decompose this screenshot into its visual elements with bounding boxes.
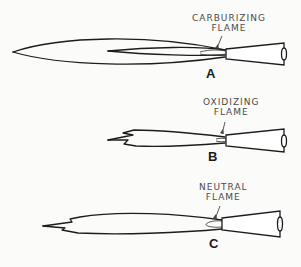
torch-tip-end	[282, 48, 287, 60]
outer-envelope-top	[108, 130, 225, 140]
torch-tip-end	[278, 217, 283, 231]
torch-tip	[226, 129, 284, 152]
torch-tip	[222, 211, 280, 237]
neutral-flame-drawing	[43, 206, 283, 237]
caption-line2: FLAME	[192, 23, 266, 33]
outer-envelope-top	[43, 213, 222, 226]
oxidizing-flame-drawing	[108, 122, 287, 152]
panel-label-c: C	[209, 236, 218, 251]
inner-cone	[216, 138, 226, 142]
outer-envelope-bottom	[43, 226, 222, 234]
torch-tip-end	[282, 135, 287, 147]
panel-label-a: A	[206, 66, 215, 81]
outer-envelope-bottom	[13, 52, 225, 64]
inner-cone	[206, 221, 222, 227]
flame-types-diagram: CARBURIZING FLAME A OXIDIZING FLAME B NE…	[0, 0, 301, 267]
caption-neutral: NEUTRAL FLAME	[199, 182, 248, 202]
diagram-drawing	[0, 0, 301, 267]
caption-oxidizing: OXIDIZING FLAME	[203, 97, 259, 117]
inner-cone	[200, 50, 226, 55]
carburizing-flame-drawing	[13, 36, 287, 65]
torch-tip	[226, 43, 284, 65]
caption-carburizing: CARBURIZING FLAME	[192, 13, 266, 33]
caption-line1: NEUTRAL	[199, 182, 248, 192]
caption-line1: OXIDIZING	[203, 97, 259, 107]
caption-line1: CARBURIZING	[192, 13, 266, 23]
outer-envelope-bottom	[108, 140, 225, 146]
panel-label-b: B	[208, 149, 217, 164]
caption-line2: FLAME	[203, 107, 259, 117]
caption-line2: FLAME	[199, 192, 248, 202]
